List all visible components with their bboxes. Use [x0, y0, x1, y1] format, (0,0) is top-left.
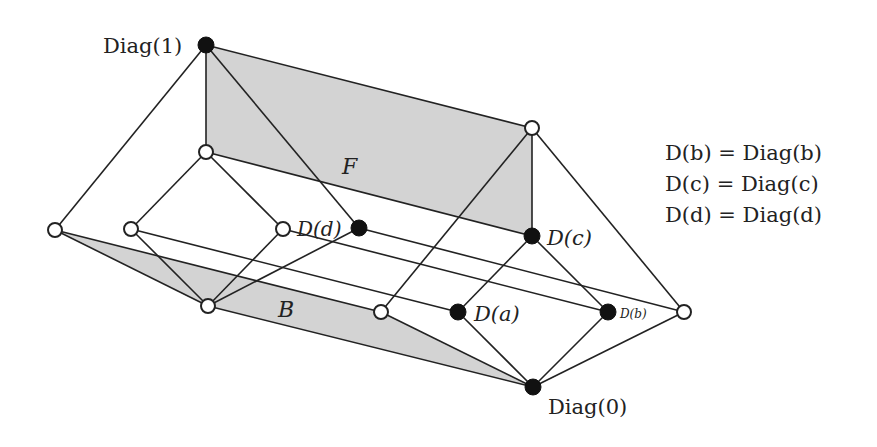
open-node-left_inner [124, 222, 138, 236]
open-node-low_mid [374, 305, 388, 319]
filled-node-Da [450, 304, 466, 320]
filled-node-Dd [351, 220, 367, 236]
edge-upper_left-left_inner [131, 152, 206, 229]
legend-line-2: D(c) = Diag(c) [665, 172, 819, 196]
open-node-top_right [525, 121, 539, 135]
open-node-b_node [201, 299, 215, 313]
region-label-F: F [341, 154, 358, 179]
filled-node-Dc [524, 228, 540, 244]
open-node-mid [276, 222, 290, 236]
legend: D(b) = Diag(b) D(c) = Diag(c) D(d) = Dia… [665, 141, 822, 227]
edge-diag1-far_left [55, 45, 206, 230]
label-diag0: Diag(0) [548, 395, 627, 419]
lattice-diagram: Diag(1) Diag(0) D(d) D(c) D(a) D(b) F B … [0, 0, 877, 447]
edge-Db-diag0 [533, 312, 608, 387]
filled-node-diag1 [198, 37, 214, 53]
region-label-B: B [277, 297, 294, 322]
edge-Dc-Da [458, 236, 532, 312]
legend-line-1: D(b) = Diag(b) [665, 141, 822, 165]
open-node-far_left [48, 223, 62, 237]
label-Dd: D(d) [296, 217, 341, 241]
edge-far_right-diag0 [533, 312, 684, 387]
label-Db: D(b) [619, 307, 647, 321]
legend-line-3: D(d) = Diag(d) [665, 203, 822, 227]
open-node-upper_left [199, 145, 213, 159]
open-node-far_right [677, 305, 691, 319]
filled-node-diag0 [525, 379, 541, 395]
label-Dc: D(c) [546, 226, 592, 250]
edge-top_right-far_right [532, 128, 684, 312]
label-diag1: Diag(1) [103, 34, 182, 58]
filled-node-Db [600, 304, 616, 320]
label-Da: D(a) [473, 302, 520, 326]
shaded-regions [55, 45, 533, 387]
region-F [206, 45, 532, 236]
